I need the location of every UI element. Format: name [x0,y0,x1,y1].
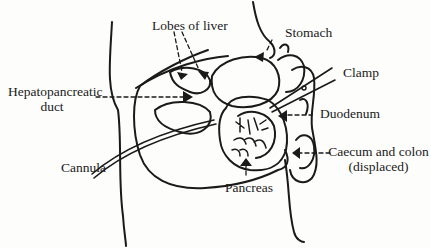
body-wall-left-line [110,22,126,246]
label-caecum-colon-line2: (displaced) [326,159,431,174]
label-duodenum: Duodenum [320,106,380,121]
label-stomach: Stomach [285,25,332,40]
pancreas-squiggles [232,118,268,156]
stomach-lobe-right [278,55,304,92]
label-cannula: Cannula [61,160,106,175]
label-caecum-and-colon: Caecum and colon (displaced) [326,144,431,174]
duodenum-outline [219,97,287,171]
arrow-liver-1 [177,72,188,80]
duodenum-inner [238,112,275,158]
arrow-stomach [254,52,264,62]
colon-outline [290,67,317,182]
arrow-pancreas [240,158,252,166]
clamp-pivot [302,86,306,90]
anatomy-drawing [0,0,431,248]
body-wall-right-line-top [253,2,275,58]
label-clamp: Clamp [343,65,379,80]
label-pancreas: Pancreas [225,180,273,195]
label-lobes-of-liver: Lobes of liver [152,18,228,33]
diagram-canvas: Lobes of liver Stomach Clamp Hepatopancr… [0,0,431,248]
label-caecum-colon-line1: Caecum and colon [326,144,431,159]
leader-lines [96,32,330,178]
stomach-small-lobe [280,45,288,52]
arrow-caecum [292,147,300,159]
label-hepatopancreatic-duct: Hepatopancreatic duct [8,84,96,114]
label-hepatopancreatic-duct-line1: Hepatopancreatic [8,84,96,99]
label-hepatopancreatic-duct-line2: duct [8,99,96,114]
colon-inner-fold [300,99,308,114]
body-wall-right-line-bottom [285,160,304,242]
